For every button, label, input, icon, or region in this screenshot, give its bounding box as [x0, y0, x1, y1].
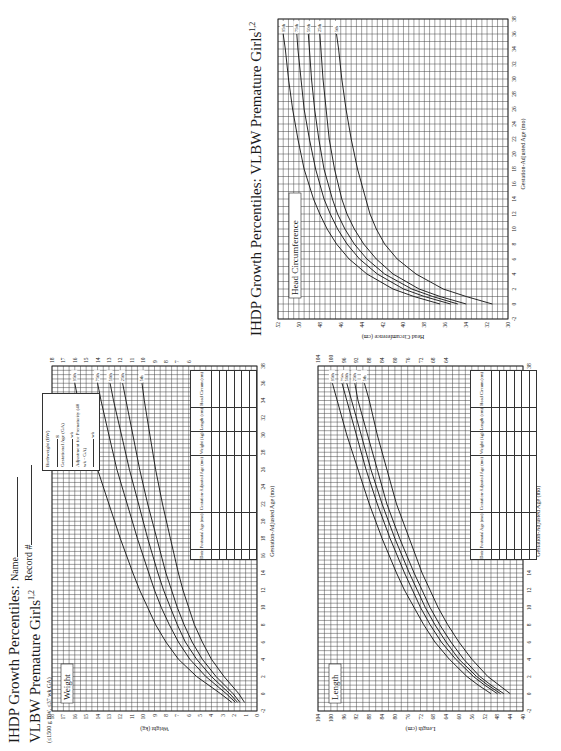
table-cell[interactable] [219, 512, 227, 550]
table-body [212, 371, 257, 560]
table-cell[interactable] [492, 512, 500, 550]
table-cell[interactable] [514, 455, 522, 512]
table-cell[interactable] [219, 455, 227, 512]
table-cell[interactable] [492, 371, 500, 408]
table-row [522, 371, 530, 560]
ga-line[interactable] [67, 439, 73, 467]
table-cell[interactable] [499, 407, 507, 432]
table-cell[interactable] [507, 512, 515, 550]
table-cell[interactable] [234, 371, 242, 408]
table-cell[interactable] [522, 407, 530, 432]
table-cell[interactable] [522, 550, 530, 560]
table-cell[interactable] [522, 432, 530, 456]
table-cell[interactable] [249, 371, 257, 408]
table-cell[interactable] [492, 407, 500, 432]
table-cell[interactable] [499, 371, 507, 408]
table-cell[interactable] [249, 550, 257, 560]
svg-text:0: 0 [511, 302, 517, 305]
table-cell[interactable] [212, 512, 220, 550]
svg-text:2: 2 [511, 287, 517, 290]
table-cell[interactable] [227, 371, 235, 408]
svg-text:6: 6 [511, 257, 517, 260]
svg-text:44: 44 [359, 322, 365, 328]
table-cell[interactable] [219, 432, 227, 456]
table-body [492, 371, 537, 560]
table-cell[interactable] [234, 407, 242, 432]
table-cell[interactable] [529, 455, 537, 512]
col-head-circ: Head Circum (cm) [471, 371, 492, 408]
table-cell[interactable] [514, 407, 522, 432]
table-cell[interactable] [507, 407, 515, 432]
table-cell[interactable] [219, 550, 227, 560]
table-cell[interactable] [514, 512, 522, 550]
table-cell[interactable] [242, 550, 250, 560]
col-date: Date [191, 550, 212, 560]
table-cell[interactable] [522, 371, 530, 408]
svg-text:Gestation-Adjusted Age (mo): Gestation-Adjusted Age (mo) [520, 119, 527, 190]
table-cell[interactable] [522, 512, 530, 550]
growth-chart-page: IHDP Growth Percentiles: VLBW Premature … [0, 0, 561, 751]
table-cell[interactable] [499, 512, 507, 550]
table-cell[interactable] [249, 432, 257, 456]
birth-info-legend: Birthweight (BW) g Gestational Age (GA) … [42, 393, 100, 471]
table-cell[interactable] [212, 371, 220, 408]
table-cell[interactable] [212, 455, 220, 512]
table-cell[interactable] [212, 550, 220, 560]
table-cell[interactable] [499, 550, 507, 560]
table-cell[interactable] [212, 432, 220, 456]
table-cell[interactable] [514, 371, 522, 408]
table-cell[interactable] [529, 407, 537, 432]
table-cell[interactable] [227, 432, 235, 456]
table-cell[interactable] [242, 432, 250, 456]
table-cell[interactable] [219, 371, 227, 408]
table-cell[interactable] [249, 407, 257, 432]
table-cell[interactable] [507, 550, 515, 560]
table-cell[interactable] [529, 371, 537, 408]
table-cell[interactable] [522, 455, 530, 512]
table-cell[interactable] [249, 512, 257, 550]
table-cell[interactable] [227, 512, 235, 550]
table-cell[interactable] [492, 455, 500, 512]
svg-text:40: 40 [400, 322, 406, 328]
table-cell[interactable] [242, 455, 250, 512]
table-cell[interactable] [234, 550, 242, 560]
table-cell[interactable] [212, 407, 220, 432]
birthweight-field[interactable]: g [52, 397, 61, 467]
table-cell[interactable] [242, 407, 250, 432]
adjust-line[interactable] [88, 439, 94, 467]
svg-text:20: 20 [511, 151, 517, 157]
table-cell[interactable] [234, 455, 242, 512]
table-cell[interactable] [242, 371, 250, 408]
table-cell[interactable] [507, 371, 515, 408]
table-cell[interactable] [529, 550, 537, 560]
head-circ-page-title: IHDP Growth Percentiles: VLBW Premature … [248, 22, 265, 336]
svg-text:8: 8 [511, 242, 517, 245]
table-row [219, 371, 227, 560]
svg-text:95th: 95th [281, 23, 286, 32]
table-cell[interactable] [234, 512, 242, 550]
ga-field[interactable]: wk [67, 397, 76, 467]
table-cell[interactable] [514, 550, 522, 560]
table-cell[interactable] [507, 432, 515, 456]
table-cell[interactable] [249, 455, 257, 512]
table-cell[interactable] [492, 550, 500, 560]
table-cell[interactable] [499, 432, 507, 456]
table-cell[interactable] [529, 432, 537, 456]
svg-text:26: 26 [511, 106, 517, 112]
table-cell[interactable] [499, 455, 507, 512]
table-cell[interactable] [227, 550, 235, 560]
col-weight: Weight (kg) [191, 432, 212, 456]
birthweight-line[interactable] [52, 439, 58, 467]
table-cell[interactable] [492, 432, 500, 456]
table-cell[interactable] [219, 407, 227, 432]
table-cell[interactable] [227, 407, 235, 432]
table-cell[interactable] [529, 512, 537, 550]
table-cell[interactable] [242, 512, 250, 550]
table-cell[interactable] [514, 432, 522, 456]
svg-text:32: 32 [511, 61, 517, 67]
table-cell[interactable] [234, 432, 242, 456]
table-cell[interactable] [227, 455, 235, 512]
table-cell[interactable] [507, 455, 515, 512]
adjust-field[interactable]: wk [88, 397, 97, 467]
adjust-label: Adjustment for Prematurity (40 wk - GA) [75, 397, 88, 467]
